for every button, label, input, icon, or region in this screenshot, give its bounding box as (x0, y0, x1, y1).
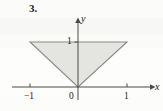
origin-tick-label: 0 (69, 91, 74, 101)
y-tick-label-one: 1 (67, 36, 72, 46)
figure-container: 3. y x −1 0 1 1 (0, 0, 163, 111)
y-axis-arrow-icon (75, 18, 81, 24)
y-axis-label: y (81, 14, 85, 24)
x-tick-label-negative-one: −1 (24, 91, 34, 101)
x-axis-label: x (155, 82, 159, 92)
x-tick-label-one: 1 (124, 91, 129, 101)
